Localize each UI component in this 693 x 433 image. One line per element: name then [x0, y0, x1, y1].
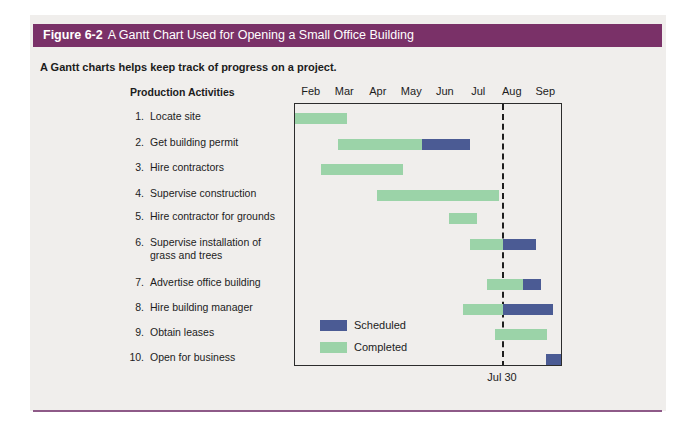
activity-row: 10.Open for business [117, 351, 235, 364]
month-label: May [395, 85, 429, 97]
activity-number: 3. [117, 161, 150, 174]
activity-row: 8.Hire building manager [117, 301, 253, 314]
activity-number: 2. [117, 136, 150, 149]
gantt-bar-completed [495, 329, 547, 340]
month-label: Sep [529, 85, 563, 97]
gantt-bar-completed [321, 164, 403, 175]
activity-row: 9.Obtain leases [117, 326, 214, 339]
activity-label: Hire contractor for grounds [150, 210, 275, 223]
legend-item-completed: Completed [320, 341, 407, 353]
month-label: Apr [361, 85, 395, 97]
today-line [502, 104, 504, 366]
figure-title: A Gantt Chart Used for Opening a Small O… [108, 28, 414, 42]
activity-label: Open for business [150, 351, 235, 364]
gantt-bar-scheduled [546, 354, 562, 365]
activity-label: Advertise office building [150, 276, 261, 289]
gantt-bar-completed [449, 213, 477, 224]
activity-row: 6.Supervise installation ofgrass and tre… [117, 236, 261, 262]
activity-row: 3.Hire contractors [117, 161, 224, 174]
activity-label: Obtain leases [150, 326, 214, 339]
activity-number: 7. [117, 276, 150, 289]
month-label: Feb [294, 85, 328, 97]
today-label: Jul 30 [472, 371, 532, 383]
month-label: Aug [495, 85, 529, 97]
activity-number: 9. [117, 326, 150, 339]
bottom-rule [33, 410, 662, 412]
legend-label-completed: Completed [354, 341, 407, 353]
activity-label: Hire building manager [150, 301, 253, 314]
legend-item-scheduled: Scheduled [320, 319, 406, 331]
activity-row: 1.Locate site [117, 110, 201, 123]
activity-row: 4.Supervise construction [117, 187, 256, 200]
figure-label: Figure 6-2 [43, 28, 103, 42]
activity-number: 10. [117, 351, 150, 364]
figure-header-bar: Figure 6-2A Gantt Chart Used for Opening… [33, 24, 662, 47]
month-label: Mar [328, 85, 362, 97]
month-label: Jul [462, 85, 496, 97]
activities-heading: Production Activities [130, 86, 235, 98]
activity-number: 1. [117, 110, 150, 123]
activity-number: 5. [117, 210, 150, 223]
activity-row: 5.Hire contractor for grounds [117, 210, 275, 223]
activity-row: 7.Advertise office building [117, 276, 261, 289]
activity-label: Hire contractors [150, 161, 224, 174]
activity-label: Supervise construction [150, 187, 256, 200]
gantt-bar-completed [470, 239, 503, 250]
gantt-chart: Scheduled Completed [294, 103, 562, 366]
gantt-bar-completed [377, 190, 499, 201]
activity-label: Locate site [150, 110, 201, 123]
activity-number: 8. [117, 301, 150, 314]
activity-row: 2.Get building permit [117, 136, 238, 149]
activity-label: Supervise installation ofgrass and trees [150, 236, 261, 262]
gantt-bar-completed [487, 279, 523, 290]
month-axis: FebMarAprMayJunJulAugSep [294, 85, 562, 97]
gantt-bar-scheduled [503, 239, 536, 250]
legend-swatch-completed-icon [320, 342, 347, 353]
gantt-bar-scheduled [503, 304, 553, 315]
figure-caption: A Gantt charts helps keep track of progr… [40, 61, 337, 73]
gantt-bar-scheduled [422, 139, 470, 150]
gantt-bar-completed [338, 139, 422, 150]
activity-number: 4. [117, 187, 150, 200]
gantt-bar-scheduled [523, 279, 541, 290]
gantt-bar-completed [295, 113, 347, 124]
month-label: Jun [428, 85, 462, 97]
activity-number: 6. [117, 236, 150, 262]
figure-page: Figure 6-2A Gantt Chart Used for Opening… [0, 0, 693, 433]
gantt-bar-completed [463, 304, 503, 315]
activity-label: Get building permit [150, 136, 238, 149]
legend-swatch-scheduled-icon [320, 320, 347, 331]
legend-label-scheduled: Scheduled [354, 319, 406, 331]
